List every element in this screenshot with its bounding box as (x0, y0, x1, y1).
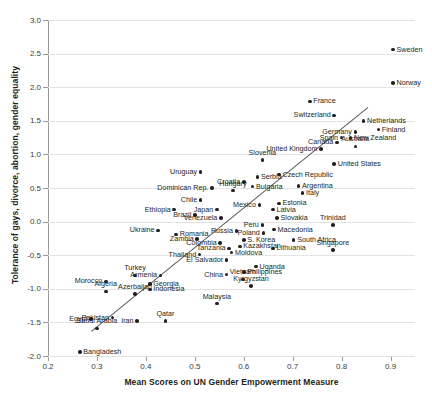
y-tick-label: 0.0 (0, 217, 41, 226)
data-point[interactable] (332, 114, 336, 118)
data-point-label: Slovakia (281, 214, 308, 222)
data-point[interactable] (225, 258, 229, 262)
data-point-label: Kyrgyzstan (233, 275, 269, 283)
y-tick-label: 1.0 (0, 150, 41, 159)
data-point-label: China (204, 271, 223, 279)
data-point[interactable] (95, 327, 99, 331)
data-point-label: El Salvador (186, 256, 223, 264)
data-point-label: Dominican Rep. (157, 184, 208, 192)
data-point-label: Iran (121, 317, 133, 325)
x-tick (293, 357, 294, 361)
data-point[interactable] (271, 208, 275, 212)
data-point-label: Latvia (277, 206, 296, 214)
data-point[interactable] (164, 319, 168, 323)
data-point[interactable] (332, 162, 336, 166)
data-point[interactable] (199, 198, 203, 202)
data-point[interactable] (275, 216, 279, 220)
data-point[interactable] (391, 81, 395, 85)
x-tick-label: 0.7 (273, 362, 313, 371)
data-point-label: Macedonia (278, 226, 313, 234)
data-point-label: Lithuania (277, 245, 306, 253)
data-point[interactable] (135, 319, 139, 323)
data-point[interactable] (297, 184, 301, 188)
y-tick-label: 2.5 (0, 49, 41, 58)
data-point[interactable] (227, 247, 231, 251)
data-point[interactable] (301, 191, 305, 195)
data-point-label: Netherlands (367, 117, 406, 125)
data-point[interactable] (215, 208, 219, 212)
y-tick-label: -2.0 (0, 352, 41, 361)
data-point-label: Bangladesh (83, 348, 121, 356)
data-point-label: Venezuela (184, 214, 218, 222)
data-point[interactable] (354, 145, 358, 149)
data-point[interactable] (261, 223, 265, 227)
data-point[interactable] (261, 158, 265, 162)
x-tick-label: 0.9 (371, 362, 411, 371)
data-point-label: Chile (181, 196, 197, 204)
data-point[interactable] (249, 284, 253, 288)
data-point[interactable] (256, 175, 260, 179)
data-point[interactable] (331, 248, 335, 252)
data-point[interactable] (219, 216, 223, 220)
data-point[interactable] (251, 185, 255, 189)
data-point-label: Slovenia (249, 149, 277, 157)
data-point[interactable] (308, 100, 312, 104)
data-point[interactable] (319, 147, 323, 151)
x-tick (97, 357, 98, 361)
y-tick-label: 3.0 (0, 16, 41, 25)
y-tick-label: 2.0 (0, 83, 41, 92)
data-point-label: Russia (211, 227, 233, 235)
data-point-label: Czech Republic (282, 171, 332, 179)
x-tick-label: 0.8 (322, 362, 362, 371)
data-point-label: Switzerland (294, 112, 331, 120)
x-tick-label: 0.2 (28, 362, 68, 371)
data-point[interactable] (225, 273, 229, 277)
data-point-label: Azerbaijan (118, 283, 152, 291)
data-point-label: Ukraine (130, 227, 155, 235)
y-tick-label: -0.5 (0, 251, 41, 260)
data-point[interactable] (258, 203, 262, 207)
x-tick (342, 357, 343, 361)
data-point[interactable] (231, 189, 235, 193)
data-point[interactable] (133, 292, 137, 296)
x-tick (244, 357, 245, 361)
x-tick (391, 357, 392, 361)
x-tick (146, 357, 147, 361)
x-tick-label: 0.3 (77, 362, 117, 371)
data-point[interactable] (362, 119, 366, 123)
data-point-label: Italy (306, 189, 319, 197)
y-tick-label: 0.5 (0, 184, 41, 193)
data-point[interactable] (199, 170, 203, 174)
scatter-chart: SwedenNorwayFranceSwitzerlandNetherlands… (0, 0, 432, 396)
y-axis-title: Tolerance of gays, divorce, abortion, ge… (10, 25, 20, 325)
x-tick (195, 357, 196, 361)
data-point[interactable] (272, 228, 276, 232)
data-point[interactable] (331, 223, 335, 227)
data-point-label: France (313, 98, 335, 106)
data-point[interactable] (230, 251, 234, 255)
data-point-label: Trinidad (320, 214, 346, 222)
data-point[interactable] (391, 48, 395, 52)
data-point[interactable] (159, 274, 163, 278)
x-tick-label: 0.4 (126, 362, 166, 371)
data-point-label: Serbia (261, 173, 282, 181)
data-point[interactable] (215, 302, 219, 306)
x-tick (48, 357, 49, 361)
data-point-label: Australia (341, 136, 369, 144)
data-point[interactable] (377, 128, 381, 132)
data-point-label: Japan (194, 206, 214, 214)
data-point[interactable] (271, 247, 275, 251)
data-point-label: Bulgaria (256, 183, 282, 191)
data-point-label: Singapore (316, 239, 349, 247)
y-tick-label: -1.0 (0, 284, 41, 293)
data-point[interactable] (335, 141, 339, 145)
data-point[interactable] (104, 290, 108, 294)
y-tick-label: -1.5 (0, 318, 41, 327)
data-point[interactable] (156, 229, 160, 233)
data-point[interactable] (292, 238, 296, 242)
x-axis-title: Mean Scores on UN Gender Empowerment Mea… (48, 377, 415, 387)
data-point-label: Norway (396, 79, 420, 87)
data-point[interactable] (78, 350, 82, 354)
data-point[interactable] (210, 186, 214, 190)
data-point-label: Tanzania (197, 245, 226, 253)
